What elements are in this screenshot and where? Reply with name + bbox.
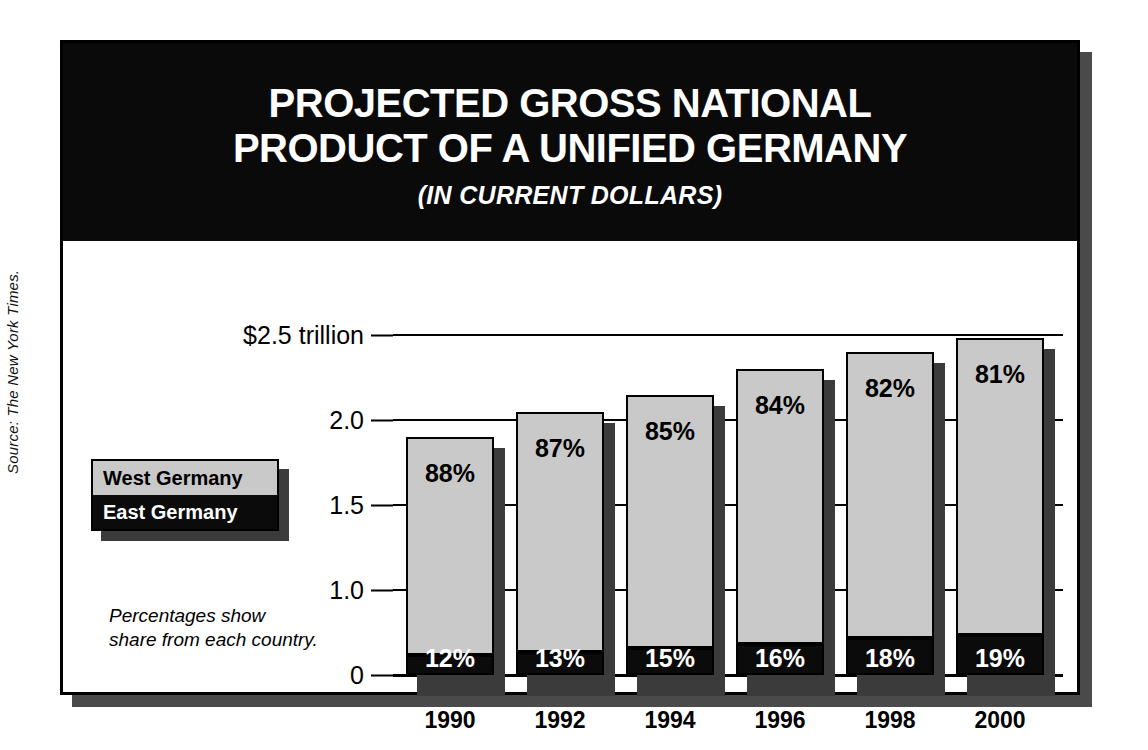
data-label-east-germany: 15%: [626, 644, 714, 673]
legend-label-west-germany: West Germany: [103, 467, 243, 490]
x-axis-tick-label: 1992: [510, 707, 610, 734]
data-label-east-germany: 13%: [516, 644, 604, 673]
y-axis-tick-mark: [371, 334, 393, 336]
y-axis-tick-mark: [371, 589, 393, 591]
legend-item-west-germany: West Germany: [93, 461, 277, 495]
y-axis-tick-label: 0: [350, 661, 393, 690]
source-credit: Source: The New York Times.: [4, 224, 21, 474]
data-label-west-germany: 81%: [956, 360, 1044, 389]
chart-title-line-1: PROJECTED GROSS NATIONAL: [269, 81, 872, 126]
plot-area: $2.5 trillion2.01.51.00 88%12%87%13%85%1…: [63, 241, 1077, 696]
y-axis-tick-mark: [371, 504, 393, 506]
footnote-line-2: share from each country.: [109, 628, 318, 652]
x-axis-tick-label: 1994: [620, 707, 720, 734]
data-label-east-germany: 18%: [846, 644, 934, 673]
data-label-east-germany: 16%: [736, 644, 824, 673]
data-label-east-germany: 19%: [956, 644, 1044, 673]
x-axis-tick-label: 1998: [840, 707, 940, 734]
y-axis-tick-label: 2.0: [329, 406, 393, 435]
poster-frame: PROJECTED GROSS NATIONAL PRODUCT OF A UN…: [60, 40, 1080, 695]
title-banner: PROJECTED GROSS NATIONAL PRODUCT OF A UN…: [63, 43, 1077, 241]
y-axis-tick-label: 1.5: [329, 491, 393, 520]
y-axis-tick-mark: [371, 419, 393, 421]
legend-box: West Germany East Germany: [91, 459, 279, 531]
footnote-line-1: Percentages show: [109, 604, 318, 628]
legend-item-east-germany: East Germany: [93, 495, 277, 529]
x-axis-tick-label: 2000: [950, 707, 1050, 734]
x-axis-tick-label: 1996: [730, 707, 830, 734]
footnote: Percentages show share from each country…: [109, 604, 318, 652]
gridline: [393, 334, 1063, 336]
data-label-west-germany: 87%: [516, 434, 604, 463]
chart-poster: Source: The New York Times. PROJECTED GR…: [0, 0, 1148, 750]
data-label-west-germany: 85%: [626, 417, 714, 446]
chart-subtitle: (IN CURRENT DOLLARS): [418, 180, 723, 210]
legend-label-east-germany: East Germany: [103, 501, 238, 524]
y-axis-tick-label: 1.0: [329, 576, 393, 605]
data-label-west-germany: 84%: [736, 391, 824, 420]
y-axis-tick-label: $2.5 trillion: [243, 321, 393, 350]
y-axis-tick-mark: [371, 674, 393, 676]
chart-title-line-2: PRODUCT OF A UNIFIED GERMANY: [233, 126, 907, 171]
data-label-west-germany: 88%: [406, 459, 494, 488]
x-axis-tick-label: 1990: [400, 707, 500, 734]
data-label-east-germany: 12%: [406, 644, 494, 673]
data-label-west-germany: 82%: [846, 374, 934, 403]
